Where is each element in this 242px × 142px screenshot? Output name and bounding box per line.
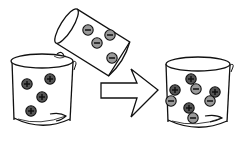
positive-ion-icon [184,103,194,113]
negative-ion-icon [107,53,117,63]
negative-ion-icon [205,96,215,106]
positive-ion-icon [26,106,36,116]
positive-ion-icon [186,74,196,84]
right-arrow-icon [101,69,158,117]
positive-ion-icon [22,79,32,89]
positive-ion-icon [45,74,55,84]
negative-ion-icon [166,96,176,106]
negative-ion-icon [191,84,201,94]
positive-ion-icon [170,85,180,95]
mixing-diagram [0,0,242,142]
diagram-canvas [0,0,242,142]
negative-ion-icon [92,38,102,48]
left-beaker [11,54,76,125]
positive-ion-icon [37,92,47,102]
negative-ion-icon [188,113,198,123]
negative-ion-icon [105,30,115,40]
negative-ion-icon [83,25,93,35]
